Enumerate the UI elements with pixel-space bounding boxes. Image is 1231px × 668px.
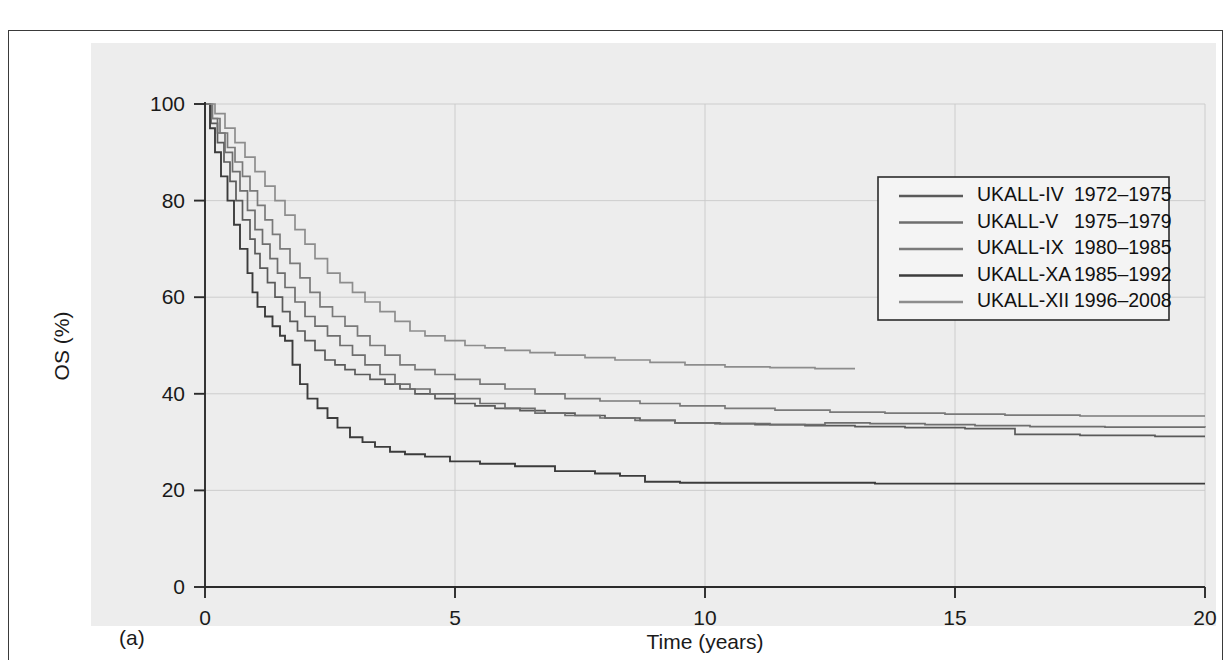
chart-legend: UKALL-IV1972–1975UKALL-V1975–1979UKALL-I… [878, 177, 1172, 320]
panel-label: (a) [119, 626, 145, 649]
legend-label: UKALL-IX [977, 236, 1064, 258]
y-tick-label: 60 [162, 285, 185, 308]
figure-frame: 02040608010005101520 UKALL-IV1972–1975UK… [8, 30, 1223, 660]
legend-years: 1980–1985 [1074, 236, 1172, 258]
y-tick-label: 80 [162, 189, 185, 212]
x-tick-label: 20 [1193, 606, 1216, 629]
legend-years: 1972–1975 [1074, 183, 1172, 205]
chart-plot-area: 02040608010005101520 UKALL-IV1972–1975UK… [9, 31, 1223, 660]
legend-label: UKALL-IV [977, 183, 1064, 205]
y-tick-label: 40 [162, 382, 185, 405]
legend-label: UKALL-XA [977, 263, 1071, 285]
legend-years: 1985–1992 [1074, 263, 1172, 285]
y-tick-label: 100 [150, 92, 185, 115]
y-tick-label: 20 [162, 478, 185, 501]
legend-label: UKALL-V [977, 210, 1058, 232]
tick-labels: 02040608010005101520 [150, 92, 1217, 629]
survival-curve-chart: 02040608010005101520 UKALL-IV1972–1975UK… [9, 31, 1223, 660]
x-axis-title: Time (years) [646, 630, 763, 653]
x-tick-label: 15 [943, 606, 966, 629]
caption-remnant [10, 0, 1210, 9]
x-tick-label: 10 [693, 606, 716, 629]
legend-years: 1975–1979 [1074, 210, 1172, 232]
x-tick-label: 5 [449, 606, 461, 629]
legend-label: UKALL-XII [977, 289, 1069, 311]
legend-years: 1996–2008 [1074, 289, 1172, 311]
curve-ukall-xii [205, 104, 855, 369]
y-axis-title: OS (%) [50, 312, 73, 381]
x-tick-label: 0 [199, 606, 211, 629]
y-tick-label: 0 [173, 575, 185, 598]
